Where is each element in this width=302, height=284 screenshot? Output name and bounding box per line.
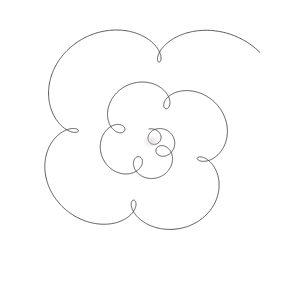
artwork-canvas [0,0,302,284]
spirograph-drawing [0,0,302,284]
spirograph-curve [45,30,260,229]
